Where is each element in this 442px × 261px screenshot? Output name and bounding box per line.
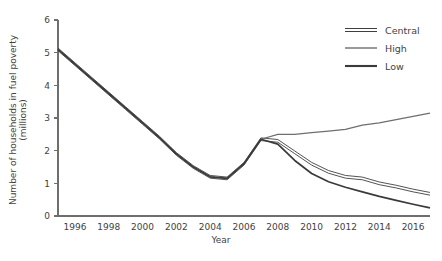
series-group (58, 48, 430, 208)
y-tick-label: 2 (44, 146, 50, 156)
y-tick-label: 0 (44, 211, 50, 221)
fuel-poverty-line-chart: 0123456 19961998200020022004200620082010… (0, 0, 442, 261)
y-axis-title-line1: Number of households in fuel poverty (8, 34, 18, 205)
y-tick-label: 1 (44, 179, 50, 189)
x-axis-title: Year (210, 235, 230, 245)
legend-label-high: High (385, 43, 407, 54)
y-tick-group: 0123456 (44, 15, 58, 221)
legend-label-central: Central (385, 25, 420, 36)
y-axis-title-line2: (millions) (18, 99, 28, 141)
y-tick-label: 4 (44, 81, 50, 91)
chart-canvas: 0123456 19961998200020022004200620082010… (0, 0, 442, 261)
x-tick-label: 2010 (300, 222, 323, 232)
y-tick-label: 3 (44, 113, 50, 123)
y-tick-label: 6 (44, 15, 50, 25)
series-line-low (58, 49, 430, 207)
series-line-central (58, 48, 430, 192)
y-tick-label: 5 (44, 48, 50, 58)
series-line-central (58, 51, 430, 195)
x-tick-label: 1996 (63, 222, 86, 232)
x-tick-label: 2008 (266, 222, 289, 232)
legend-label-low: Low (385, 61, 404, 72)
x-tick-label: 2002 (165, 222, 188, 232)
chart-legend: CentralHighLow (345, 25, 420, 72)
y-axis: 0123456 (44, 15, 58, 221)
x-tick-label: 2012 (334, 222, 357, 232)
x-axis: 1996199820002002200420062008201020122014… (58, 216, 430, 232)
x-tick-label: 2016 (402, 222, 425, 232)
x-tick-label: 2006 (233, 222, 256, 232)
x-tick-group: 1996199820002002200420062008201020122014… (63, 222, 424, 232)
series-line-high (58, 49, 430, 178)
x-tick-label: 2004 (199, 222, 222, 232)
x-tick-label: 1998 (97, 222, 120, 232)
y-axis-title: Number of households in fuel poverty (mi… (8, 34, 28, 205)
x-tick-label: 2000 (131, 222, 154, 232)
x-tick-label: 2014 (368, 222, 391, 232)
